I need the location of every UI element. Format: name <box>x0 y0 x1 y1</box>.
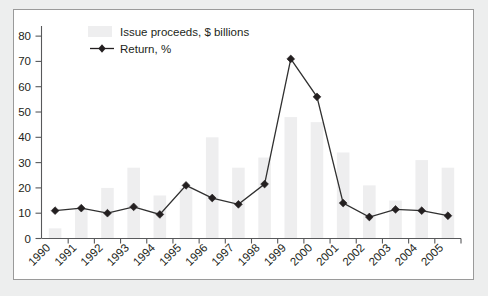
legend-label-issue-proceeds: Issue proceeds, $ billions <box>120 26 249 38</box>
x-tick-label: 2005 <box>419 241 446 268</box>
x-tick-label: 1994 <box>131 241 158 268</box>
chart-card: 80706050403020100 1990199119921993199419… <box>13 9 474 280</box>
return-data-point <box>51 207 59 215</box>
y-tick-label: 80 <box>18 30 31 42</box>
y-tick-label: 50 <box>18 106 31 118</box>
x-tick-label: 1997 <box>209 241 236 268</box>
return-line-path <box>55 59 448 217</box>
return-data-point <box>287 55 295 63</box>
bar <box>49 228 62 238</box>
bar <box>75 208 88 238</box>
x-tick-label: 1998 <box>235 241 262 268</box>
y-tick-label: 70 <box>18 55 31 67</box>
x-tick-label: 1995 <box>157 241 184 268</box>
x-tick-label: 1991 <box>52 241 79 268</box>
return-data-point <box>313 93 321 101</box>
x-tick-label: 1996 <box>183 241 210 268</box>
bar <box>206 137 219 238</box>
y-tick-label: 10 <box>18 207 31 219</box>
x-tick-label: 1992 <box>78 241 105 268</box>
x-tick-label: 1990 <box>26 241 53 268</box>
x-tick-label: 1993 <box>104 241 131 268</box>
bar <box>258 158 271 239</box>
x-axis-ticks: 1990199119921993199419951996199719981999… <box>26 239 461 269</box>
x-tick-label: 1999 <box>262 241 289 268</box>
bar <box>363 185 376 238</box>
legend-diamond-return <box>98 44 105 52</box>
y-tick-label: 60 <box>18 81 31 93</box>
chart-canvas: 80706050403020100 1990199119921993199419… <box>14 10 473 279</box>
x-tick-label: 2002 <box>340 241 367 268</box>
y-tick-label: 40 <box>18 131 31 143</box>
legend-label-return: Return, % <box>120 43 171 55</box>
chart-legend: Issue proceeds, $ billions Return, % <box>88 26 249 55</box>
x-tick-label: 2003 <box>366 241 393 268</box>
bar <box>285 117 298 238</box>
figure-root: 80706050403020100 1990199119921993199419… <box>0 0 488 296</box>
x-tick-label: 2004 <box>393 241 420 268</box>
x-tick-label: 2000 <box>288 241 315 268</box>
x-tick-label: 2001 <box>314 241 341 268</box>
y-tick-label: 20 <box>18 182 31 194</box>
bar <box>337 152 350 238</box>
bar <box>311 122 324 238</box>
bar-series <box>49 117 454 238</box>
y-tick-label: 0 <box>25 233 31 245</box>
bar <box>180 188 193 239</box>
y-tick-label: 30 <box>18 157 31 169</box>
legend-swatch-issue-proceeds <box>88 26 112 37</box>
bar <box>442 168 455 239</box>
y-axis-ticks: 80706050403020100 <box>18 30 41 244</box>
bar <box>415 160 428 238</box>
